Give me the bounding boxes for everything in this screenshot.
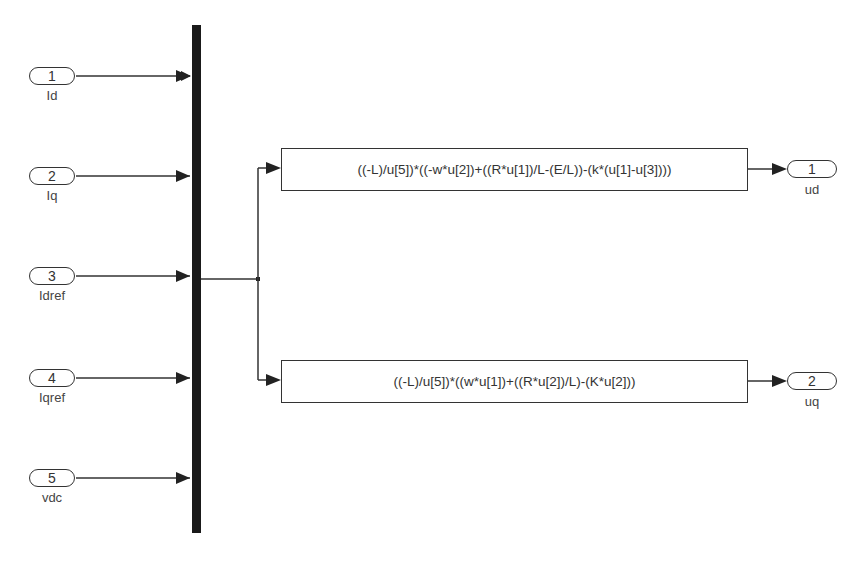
inport-5-label: vdc	[22, 490, 82, 505]
inport-number: 4	[48, 370, 56, 386]
inport-4-label: Iqref	[22, 390, 82, 405]
inport-number: 3	[48, 268, 56, 284]
outport-1-block[interactable]: 1	[787, 160, 837, 178]
inport-3-label: Idref	[22, 288, 82, 303]
fcn-expression-ud: ((-L)/u[5])*((-w*u[2])+((R*u[1])/L-(E/L)…	[358, 162, 672, 177]
fcn-expression-uq: ((-L)/u[5])*((w*u[1])+((R*u[2])/L)-(K*u[…	[394, 374, 636, 389]
mux-block[interactable]	[192, 25, 201, 533]
signal-lines	[0, 0, 868, 561]
inport-5-block[interactable]: 5	[29, 469, 75, 487]
inport-4-block[interactable]: 4	[29, 369, 75, 387]
inport-number: 1	[48, 68, 56, 84]
outport-number: 2	[808, 373, 816, 389]
inport-3-block[interactable]: 3	[29, 267, 75, 285]
outport-2-block[interactable]: 2	[787, 372, 837, 390]
block-diagram-canvas: 1 Id 2 Iq 3 Idref 4 Iqref 5 vdc ((-L)/u[…	[0, 0, 868, 561]
outport-2-label: uq	[782, 394, 842, 409]
inport-number: 2	[48, 168, 56, 184]
inport-2-label: Iq	[22, 188, 82, 203]
inport-1-label: Id	[22, 88, 82, 103]
inport-number: 5	[48, 470, 56, 486]
fcn-block-ud[interactable]: ((-L)/u[5])*((-w*u[2])+((R*u[1])/L-(E/L)…	[281, 148, 748, 191]
outport-number: 1	[808, 161, 816, 177]
inport-2-block[interactable]: 2	[29, 167, 75, 185]
fcn-block-uq[interactable]: ((-L)/u[5])*((w*u[1])+((R*u[2])/L)-(K*u[…	[281, 360, 748, 403]
inport-1-block[interactable]: 1	[29, 67, 75, 85]
outport-1-label: ud	[782, 182, 842, 197]
